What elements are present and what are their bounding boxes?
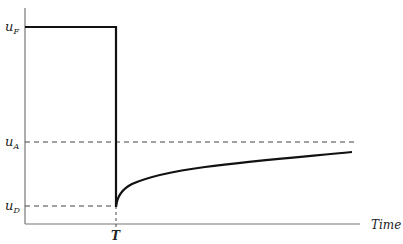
ud-label: uD bbox=[5, 198, 20, 215]
uf-label: uF bbox=[5, 19, 19, 36]
chart: uF uA uD T Time bbox=[0, 0, 403, 244]
recovery-curve bbox=[116, 152, 352, 207]
ua-label: uA bbox=[5, 134, 19, 151]
t-label: T bbox=[111, 229, 121, 243]
series-line bbox=[25, 27, 116, 207]
x-axis-title: Time bbox=[371, 218, 401, 232]
